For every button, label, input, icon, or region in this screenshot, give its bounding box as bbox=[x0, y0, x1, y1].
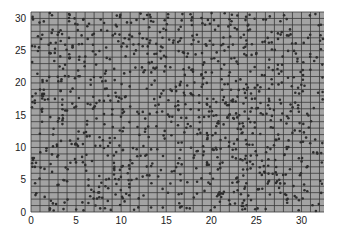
x-tick-label: 20 bbox=[206, 215, 218, 226]
scatter-chart: 051015202530 051015202530 bbox=[0, 0, 340, 233]
x-tick-label: 15 bbox=[161, 215, 173, 226]
y-tick-label: 10 bbox=[15, 142, 27, 153]
x-tick-label: 25 bbox=[251, 215, 263, 226]
y-tick-label: 15 bbox=[15, 110, 27, 121]
x-tick-label: 0 bbox=[28, 215, 34, 226]
x-axis-ticks: 051015202530 bbox=[28, 215, 307, 226]
y-tick-label: 20 bbox=[15, 77, 27, 88]
y-tick-label: 25 bbox=[15, 45, 27, 56]
x-tick-label: 30 bbox=[296, 215, 308, 226]
x-tick-label: 10 bbox=[116, 215, 128, 226]
y-axis-ticks: 051015202530 bbox=[15, 13, 27, 218]
y-tick-label: 5 bbox=[20, 174, 26, 185]
y-tick-label: 30 bbox=[15, 13, 27, 24]
x-tick-label: 5 bbox=[73, 215, 79, 226]
y-tick-label: 0 bbox=[20, 207, 26, 218]
